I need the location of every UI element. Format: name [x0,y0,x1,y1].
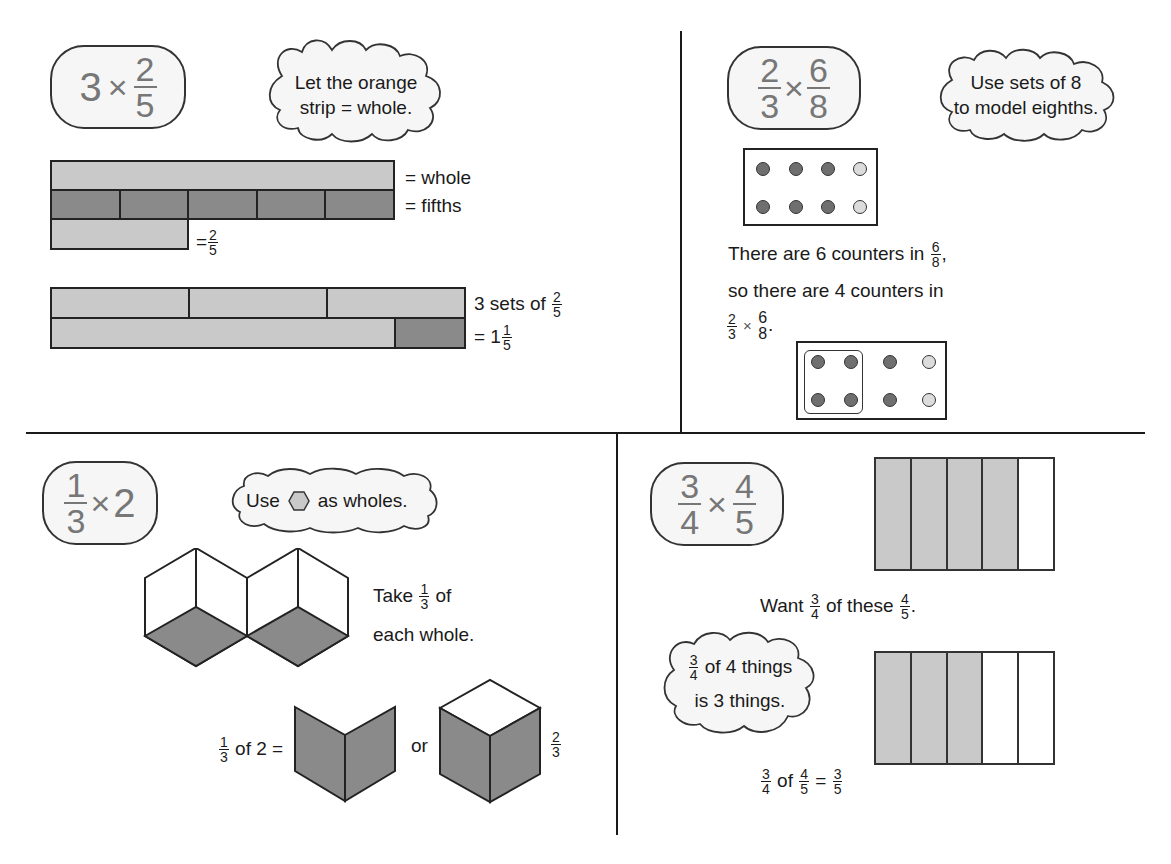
equals: = [196,231,207,252]
numerator: 2 [551,730,561,745]
counter-dark [756,200,770,214]
fraction: 25 [208,228,218,257]
counter-dark [821,162,835,176]
denominator: 8 [807,89,830,123]
denominator: 8 [758,326,767,342]
expr-whole: 2 [113,481,135,526]
text-or: or [411,735,428,757]
denominator: 5 [733,505,756,539]
text-counters-line1: There are 6 counters in 68, [728,240,947,269]
fifth-shaded [983,459,1019,569]
fraction: 25 [552,290,562,319]
two-fifths-strip [50,218,189,250]
fraction: 23 [551,730,561,759]
fraction-unruled: 68 [758,310,767,342]
fifth-empty [1019,459,1053,569]
denominator: 3 [728,327,736,341]
denominator: 5 [834,782,842,796]
text-counters-line2: so there are 4 counters in [728,280,943,302]
counter-light [853,162,867,176]
two-fifths-segment [190,289,328,317]
counter-dark [844,355,858,369]
three-sets-strip [50,287,466,319]
cloud-line: Use sets of 8 [940,70,1112,95]
numerator: 2 [134,52,157,88]
fifth-shaded [912,459,948,569]
divider-vertical-bottom [616,433,618,835]
denominator: 5 [503,338,511,352]
text-each-whole: each whole. [373,624,474,646]
numerator: 2 [758,53,781,89]
denominator: 3 [758,89,781,123]
text-third-of-two: 13 of 2 = [218,735,283,764]
text-two-thirds: 23 [550,730,562,759]
text: of [436,585,452,606]
text-counters-line3: 23 × 68. [726,310,773,342]
text: Take [373,585,413,606]
text: of 4 things [705,656,793,677]
denominator: 3 [552,745,560,759]
expr-fraction-b: 6 8 [807,53,830,123]
label-fifths: = fifths [405,195,462,217]
label-two-fifths: =25 [196,228,219,257]
numerator: 2 [208,228,218,243]
grid-three-fifths [874,651,1055,765]
denominator: 5 [553,305,561,319]
numerator: 4 [799,767,809,782]
fifth-segment [121,191,190,218]
text: . [911,595,916,616]
text: Use [246,488,280,513]
counter-box-eighths [743,148,878,226]
text-take-third: Take 13 of [373,582,451,611]
expr-whole: 3 [79,65,101,110]
fifth-shaded [876,653,912,763]
fifth-segment [326,191,393,218]
counter-dark [789,162,803,176]
numerator: 1 [419,582,429,597]
expression-pill-q2: 2 3 × 6 8 [727,46,861,130]
numerator: 3 [810,592,820,607]
numerator: 1 [502,323,512,338]
fifth-shaded [876,459,912,569]
whole-segment [52,319,396,347]
denominator: 5 [901,607,909,621]
fraction: 13 [219,735,229,764]
cloud-line: to model eighths. [940,95,1112,120]
label-whole: = whole [405,167,471,189]
numerator: 6 [807,53,830,89]
text: , [942,243,947,264]
denominator: 3 [420,597,428,611]
expr-fraction-a: 3 4 [678,469,701,539]
numerator: 6 [758,310,767,326]
fraction: 68 [931,240,941,269]
fifth-shaded [948,459,984,569]
expr-fraction: 1 3 [64,468,87,538]
denominator: 4 [762,782,770,796]
fraction: 45 [900,592,910,621]
fifth-empty [1019,653,1053,763]
numerator: 1 [219,735,229,750]
fraction: 15 [502,323,512,352]
two-fifths-segment [328,289,464,317]
times-sign: × [707,485,727,524]
numerator: 2 [727,312,737,327]
denominator: 4 [678,505,701,539]
denominator: 4 [690,668,698,682]
denominator: 3 [220,750,228,764]
equals: = [815,770,826,791]
expression-pill-q3: 1 3 × 2 [42,461,158,545]
divider-horizontal [26,432,1145,434]
expr-fraction-b: 4 5 [733,469,756,539]
denominator: 5 [209,243,217,257]
whole-strip [50,160,395,191]
label-result: = 115 [474,323,513,352]
cloud-text-q1: Let the orange strip = whole. [274,70,438,120]
text: There are 6 counters in [728,243,924,264]
divider-vertical-top [680,31,682,433]
cloud-line: Let the orange [274,70,438,95]
denominator: 5 [134,88,157,122]
expr-fraction: 2 5 [134,52,157,122]
text: of [777,770,793,791]
numerator: 4 [733,469,756,505]
counter-dark [883,355,897,369]
